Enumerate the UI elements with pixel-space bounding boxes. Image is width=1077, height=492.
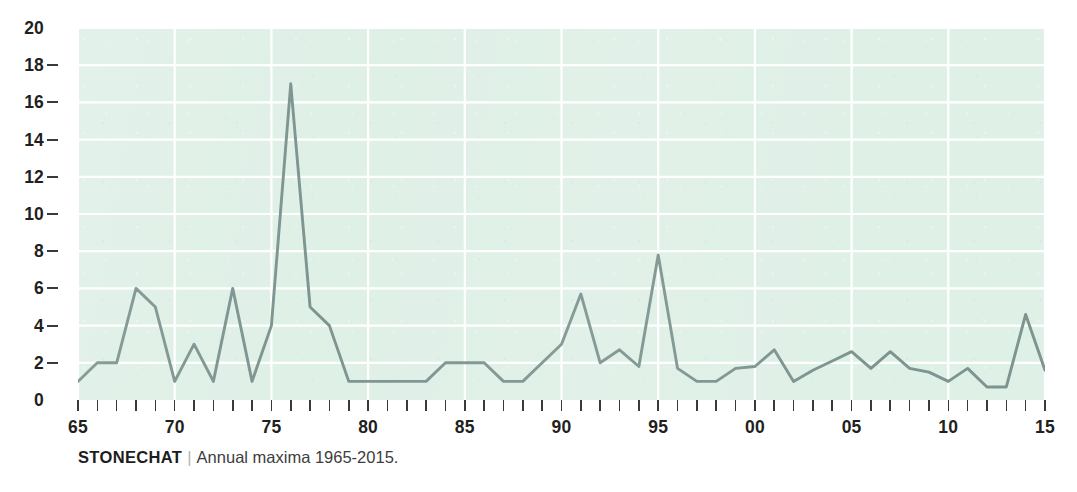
x-axis-tick-label: 95 <box>648 417 668 438</box>
y-axis-tick-label: 14 <box>24 129 44 150</box>
y-axis: 02468101214161820 <box>0 0 78 430</box>
x-axis-tick-mark <box>812 400 814 411</box>
x-axis-tick-mark <box>135 400 137 411</box>
y-axis-tick-label: 8 <box>34 241 44 262</box>
x-axis-tick-mark <box>580 400 582 411</box>
y-axis-tick-label: 0 <box>34 390 44 411</box>
y-axis-tick-mark <box>47 287 58 289</box>
x-axis-tick-mark <box>541 400 543 411</box>
caption-description: Annual maxima 1965-2015. <box>197 448 399 466</box>
x-axis-tick-mark <box>425 400 427 411</box>
figure-caption: STONECHAT|Annual maxima 1965-2015. <box>78 448 398 467</box>
stonechat-annual-maxima-figure: 02468101214161820 6570758085909500051015… <box>0 0 1077 492</box>
x-axis-tick-mark <box>657 400 659 411</box>
x-axis-tick-mark <box>1044 400 1046 411</box>
x-axis-tick-mark <box>967 400 969 411</box>
x-axis-tick-mark <box>638 400 640 411</box>
x-axis-tick-mark <box>870 400 872 411</box>
x-axis-tick-mark <box>561 400 563 411</box>
x-axis-tick-mark <box>213 400 215 411</box>
x-axis-tick-mark <box>406 400 408 411</box>
x-axis-tick-mark <box>599 400 601 411</box>
x-axis-tick-mark <box>464 400 466 411</box>
x-axis-tick-mark <box>773 400 775 411</box>
x-axis-tick-mark <box>97 400 99 411</box>
y-axis-tick-mark <box>47 101 58 103</box>
x-axis-tick-mark <box>986 400 988 411</box>
x-axis-tick-label: 75 <box>261 417 281 438</box>
x-axis-tick-mark <box>329 400 331 411</box>
y-axis-tick-label: 6 <box>34 278 44 299</box>
x-axis-tick-mark <box>948 400 950 411</box>
series-annual-maxima <box>78 84 1045 387</box>
y-axis-tick-label: 20 <box>24 18 44 39</box>
x-axis-tick-label: 10 <box>938 417 958 438</box>
y-axis-tick-mark <box>47 213 58 215</box>
x-axis-tick-mark <box>309 400 311 411</box>
x-axis-tick-mark <box>445 400 447 411</box>
x-axis-tick-mark <box>193 400 195 411</box>
x-axis-tick-mark <box>619 400 621 411</box>
x-axis-tick-label: 15 <box>1035 417 1055 438</box>
x-axis-tick-mark <box>696 400 698 411</box>
y-axis-tick-mark <box>47 250 58 252</box>
x-axis-tick-mark <box>889 400 891 411</box>
x-axis-tick-label: 65 <box>68 417 88 438</box>
x-axis-tick-mark <box>271 400 273 411</box>
x-axis-tick-mark <box>367 400 369 411</box>
x-axis-tick-mark <box>251 400 253 411</box>
y-axis-tick-mark <box>47 325 58 327</box>
y-axis-tick-mark <box>47 64 58 66</box>
x-axis-tick-mark <box>735 400 737 411</box>
x-axis-tick-mark <box>754 400 756 411</box>
x-axis-tick-mark <box>928 400 930 411</box>
x-axis: 6570758085909500051015 <box>78 400 1045 450</box>
x-axis-tick-mark <box>793 400 795 411</box>
x-axis-tick-mark <box>483 400 485 411</box>
y-axis-tick-label: 2 <box>34 352 44 373</box>
x-axis-tick-label: 80 <box>358 417 378 438</box>
caption-species-name: STONECHAT <box>78 448 182 466</box>
data-line-series <box>78 28 1045 400</box>
x-axis-tick-mark <box>77 400 79 411</box>
y-axis-tick-label: 12 <box>24 166 44 187</box>
y-axis-tick-label: 16 <box>24 92 44 113</box>
x-axis-tick-mark <box>715 400 717 411</box>
x-axis-tick-mark <box>1006 400 1008 411</box>
x-axis-tick-mark <box>503 400 505 411</box>
y-axis-tick-mark <box>47 139 58 141</box>
x-axis-tick-mark <box>909 400 911 411</box>
plot-area <box>78 28 1045 400</box>
x-axis-tick-mark <box>290 400 292 411</box>
x-axis-tick-mark <box>851 400 853 411</box>
x-axis-tick-label: 05 <box>842 417 862 438</box>
y-axis-tick-label: 4 <box>34 315 44 336</box>
y-axis-tick-mark <box>47 176 58 178</box>
y-axis-tick-mark <box>47 362 58 364</box>
y-axis-tick-label: 18 <box>24 55 44 76</box>
x-axis-tick-mark <box>155 400 157 411</box>
x-axis-tick-label: 70 <box>165 417 185 438</box>
x-axis-tick-mark <box>387 400 389 411</box>
x-axis-tick-mark <box>831 400 833 411</box>
caption-separator: | <box>182 448 196 466</box>
x-axis-tick-mark <box>677 400 679 411</box>
x-axis-tick-label: 00 <box>745 417 765 438</box>
x-axis-tick-mark <box>232 400 234 411</box>
x-axis-tick-mark <box>348 400 350 411</box>
x-axis-tick-mark <box>522 400 524 411</box>
x-axis-tick-mark <box>1025 400 1027 411</box>
y-axis-tick-label: 10 <box>24 204 44 225</box>
x-axis-tick-mark <box>116 400 118 411</box>
x-axis-tick-label: 90 <box>552 417 572 438</box>
x-axis-tick-label: 85 <box>455 417 475 438</box>
x-axis-tick-mark <box>174 400 176 411</box>
